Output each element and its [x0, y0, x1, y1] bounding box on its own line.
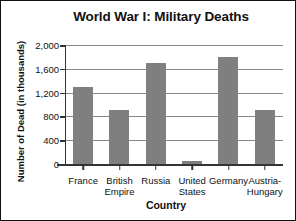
y-axis-tick-label: 800 — [43, 111, 59, 122]
chart-title: World War I: Military Deaths — [31, 9, 291, 24]
x-axis-title: Country — [41, 199, 291, 211]
y-axis-tick-label: 1,200 — [35, 87, 59, 98]
x-axis-tick-mark — [228, 164, 230, 170]
y-axis-tick-labels: 04008001,2001,6002,000 — [19, 45, 59, 164]
x-axis-tick-mark — [191, 164, 193, 170]
y-axis-tick-label: 1,600 — [35, 63, 59, 74]
x-axis-tick-label-line: States — [164, 186, 220, 197]
bar — [109, 110, 129, 164]
bar-slot — [65, 45, 101, 164]
bar — [73, 87, 93, 164]
x-axis-tick-label-line: Hungary — [237, 186, 293, 197]
chart-figure: World War I: Military Deaths Number of D… — [0, 0, 296, 221]
bar-slot — [210, 45, 246, 164]
bar — [255, 110, 275, 164]
bar — [218, 57, 238, 164]
bar — [146, 63, 166, 164]
x-axis-tick-mark — [264, 164, 266, 170]
x-axis-tick-label-line: Austria- — [237, 175, 293, 186]
x-axis-tick-mark — [82, 164, 84, 170]
bar-slot — [101, 45, 137, 164]
x-axis-line — [57, 164, 283, 166]
y-axis-tick-label: 400 — [43, 135, 59, 146]
y-axis-tick-label: 2,000 — [35, 40, 59, 51]
x-axis-tick-mark — [155, 164, 157, 170]
bar-slot — [138, 45, 174, 164]
bar-slot — [174, 45, 210, 164]
x-axis-tick-label-line: Empire — [92, 186, 148, 197]
plot-area: FranceBritishEmpireRussiaUnitedStatesGer… — [65, 45, 283, 164]
bar-slot — [247, 45, 283, 164]
x-axis-tick-mark — [119, 164, 121, 170]
x-axis-tick-label: Austria-Hungary — [237, 175, 293, 197]
